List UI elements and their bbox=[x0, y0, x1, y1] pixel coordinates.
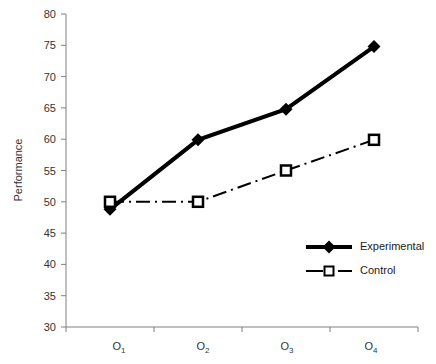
y-tick-marks bbox=[61, 14, 66, 327]
svg-text:O2: O2 bbox=[196, 340, 210, 355]
y-tick-label: 70 bbox=[44, 71, 56, 83]
series-line-experimental bbox=[110, 47, 374, 210]
data-point-open-square-icon[interactable] bbox=[369, 135, 379, 145]
legend-marker-filled-diamond-icon bbox=[323, 241, 336, 254]
y-tick-label: 40 bbox=[44, 258, 56, 270]
x-tick-label: O3 bbox=[280, 340, 294, 355]
legend-entry-experimental[interactable]: Experimental bbox=[306, 240, 424, 254]
svg-text:O3: O3 bbox=[280, 340, 294, 355]
y-tick-label: 50 bbox=[44, 196, 56, 208]
y-tick-label: 30 bbox=[44, 321, 56, 333]
data-point-open-square-icon[interactable] bbox=[105, 197, 115, 207]
svg-text:O1: O1 bbox=[112, 340, 126, 355]
performance-line-chart: 80 75 70 65 60 55 50 45 40 35 30 O1 O2 bbox=[0, 0, 436, 364]
y-tick-label: 75 bbox=[44, 39, 56, 51]
x-tick-label: O4 bbox=[364, 340, 378, 355]
data-series-layer bbox=[104, 40, 381, 216]
legend-marker-open-square-icon bbox=[325, 267, 334, 276]
y-tick-label: 45 bbox=[44, 227, 56, 239]
series-line-control bbox=[110, 140, 374, 202]
y-tick-label: 35 bbox=[44, 290, 56, 302]
data-point-open-square-icon[interactable] bbox=[281, 166, 291, 176]
y-axis-title: Performance bbox=[12, 139, 24, 202]
chart-legend: Experimental Control bbox=[306, 240, 424, 276]
series-control bbox=[105, 135, 379, 207]
x-tick-subscript: 2 bbox=[205, 346, 210, 355]
x-tick-marks bbox=[66, 327, 418, 332]
chart-canvas: 80 75 70 65 60 55 50 45 40 35 30 O1 O2 bbox=[0, 0, 436, 364]
y-tick-label: 60 bbox=[44, 133, 56, 145]
x-tick-subscript: 1 bbox=[121, 346, 126, 355]
x-tick-label: O1 bbox=[112, 340, 126, 355]
x-tick-label: O2 bbox=[196, 340, 210, 355]
data-point-open-square-icon[interactable] bbox=[193, 197, 203, 207]
y-tick-label: 65 bbox=[44, 102, 56, 114]
series-experimental bbox=[104, 40, 381, 216]
svg-text:O4: O4 bbox=[364, 340, 378, 355]
legend-label-control: Control bbox=[360, 264, 395, 276]
x-tick-subscript: 4 bbox=[373, 346, 378, 355]
legend-label-experimental: Experimental bbox=[360, 240, 424, 252]
x-tick-subscript: 3 bbox=[289, 346, 294, 355]
y-tick-label: 55 bbox=[44, 165, 56, 177]
legend-entry-control[interactable]: Control bbox=[306, 264, 395, 276]
y-tick-label: 80 bbox=[44, 8, 56, 20]
